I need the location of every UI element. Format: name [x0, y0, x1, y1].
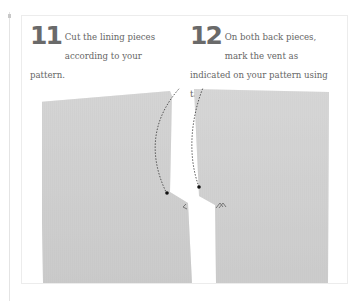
- step-number: 11: [30, 25, 61, 47]
- right-lining-piece: [194, 89, 329, 283]
- step-11: 11 Cut the lining pieces according to yo…: [30, 25, 170, 82]
- lining-pieces-photo: [42, 88, 329, 283]
- page-margin-rule: [9, 12, 10, 301]
- step-number: 12: [190, 25, 221, 47]
- marker-dot-right: [197, 185, 201, 189]
- marker-dot-left: [165, 191, 169, 195]
- page-margin-tick: [8, 14, 11, 18]
- left-lining-piece: [42, 91, 192, 283]
